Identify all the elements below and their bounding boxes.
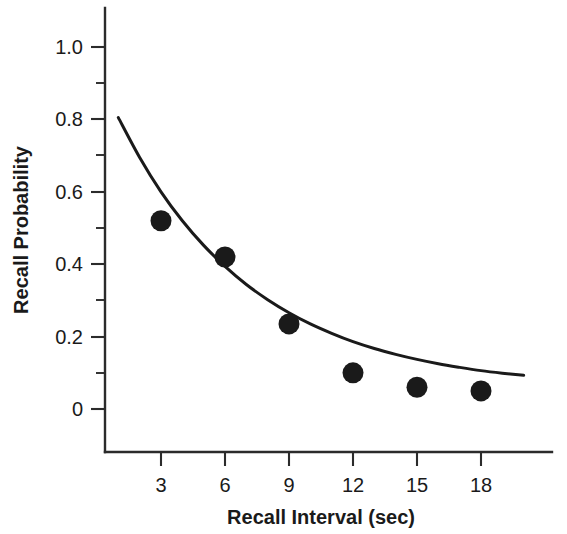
- y-tick-label-0: 0: [72, 398, 83, 420]
- data-point: [151, 210, 172, 231]
- y-axis-title: Recall Probability: [10, 145, 32, 314]
- x-tick-label-6: 6: [219, 474, 230, 496]
- y-tick-label-1.0: 1.0: [55, 36, 83, 58]
- recall-probability-chart: 1.0 0.8 0.6 0.4 0.2 0 3 6 9 12 15 18 Rec…: [0, 0, 567, 534]
- x-tick-label-15: 15: [406, 474, 428, 496]
- x-tick-label-12: 12: [342, 474, 364, 496]
- data-point: [471, 380, 492, 401]
- y-tick-label-0.4: 0.4: [55, 253, 83, 275]
- x-axis-title: Recall Interval (sec): [227, 506, 415, 528]
- y-tick-label-0.8: 0.8: [55, 108, 83, 130]
- x-tick-label-18: 18: [470, 474, 492, 496]
- data-point: [407, 377, 428, 398]
- y-tick-label-0.2: 0.2: [55, 326, 83, 348]
- data-point: [343, 362, 364, 383]
- y-tick-label-0.6: 0.6: [55, 181, 83, 203]
- data-point: [215, 246, 236, 267]
- x-tick-label-9: 9: [283, 474, 294, 496]
- x-tick-label-3: 3: [155, 474, 166, 496]
- data-point: [279, 313, 300, 334]
